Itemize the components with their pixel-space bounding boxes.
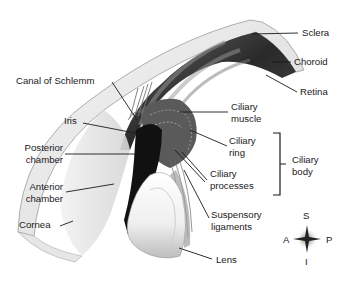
label-suspensory-ligaments-line2: ligaments (211, 221, 252, 232)
compass-superior: S (303, 210, 309, 221)
label-suspensory-ligaments: Suspensory ligaments (211, 209, 262, 233)
compass-anterior: A (283, 234, 289, 245)
label-cornea: Cornea (19, 219, 50, 231)
label-ciliary-ring-line1: Ciliary (229, 135, 256, 146)
label-anterior-chamber-line1: Anterior (29, 181, 63, 192)
label-ciliary-muscle-line1: Ciliary (231, 101, 258, 112)
label-ciliary-muscle-line2: muscle (231, 113, 261, 124)
label-anterior-chamber-line2: chamber (26, 193, 63, 204)
label-sclera: Sclera (302, 27, 329, 39)
label-ciliary-ring: Ciliary ring (229, 135, 256, 159)
orientation-compass (293, 225, 321, 253)
label-choroid: Choroid (294, 56, 328, 68)
label-ciliary-processes: Ciliary processes (210, 168, 254, 192)
label-posterior-chamber: Posterior chamber (18, 142, 63, 166)
label-ciliary-ring-line2: ring (229, 147, 245, 158)
label-canal-of-schlemm: Canal of Schlemm (16, 75, 94, 87)
compass-posterior: P (326, 234, 332, 245)
label-posterior-chamber-line1: Posterior (25, 142, 63, 153)
label-ciliary-body: Ciliary body (292, 154, 319, 178)
label-ciliary-body-line2: body (292, 166, 313, 177)
label-ciliary-muscle: Ciliary muscle (231, 101, 261, 125)
compass-inferior: I (305, 256, 308, 267)
label-ciliary-processes-line1: Ciliary (210, 168, 237, 179)
label-ciliary-processes-line2: processes (210, 180, 254, 191)
label-posterior-chamber-line2: chamber (26, 154, 63, 165)
label-suspensory-ligaments-line1: Suspensory (211, 209, 262, 220)
label-iris: Iris (64, 115, 77, 127)
ciliary-body-bracket (273, 133, 286, 195)
label-ciliary-body-line1: Ciliary (292, 154, 319, 165)
label-retina: Retina (300, 86, 328, 98)
label-anterior-chamber: Anterior chamber (18, 181, 63, 205)
label-lens: Lens (216, 254, 237, 266)
